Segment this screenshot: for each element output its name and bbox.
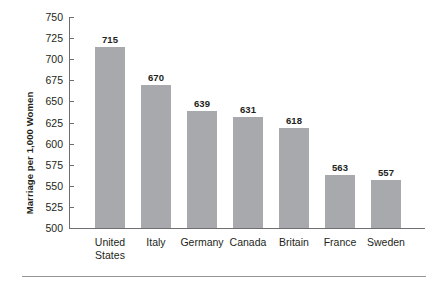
bar-value-label: 557 (363, 168, 409, 178)
y-tick-label: 500 (33, 223, 63, 233)
y-tick-label: 575 (33, 160, 63, 170)
y-tick-label: 525 (33, 202, 63, 212)
bar-chart-figure: Marriage per 1,000 Women 750725700675650… (0, 0, 445, 283)
y-tick-label: 700 (33, 54, 63, 64)
x-axis-category-label-line: Sweden (355, 236, 417, 249)
y-tick-mark (69, 123, 74, 124)
x-axis-line (69, 228, 425, 229)
bar (325, 175, 355, 228)
bar-value-label: 639 (179, 99, 225, 109)
y-tick-mark (69, 59, 74, 60)
bar (233, 117, 263, 228)
y-tick-label: 750 (33, 12, 63, 22)
bar-value-label: 563 (317, 163, 363, 173)
y-axis-title: Marriage per 1,000 Women (23, 63, 37, 243)
y-tick-label: 550 (33, 181, 63, 191)
bar-value-label: 670 (133, 73, 179, 83)
x-axis-category-label: Sweden (355, 236, 417, 249)
bar (187, 111, 217, 228)
y-tick-mark (69, 144, 74, 145)
bar-value-label: 631 (225, 105, 271, 115)
y-tick-label: 600 (33, 139, 63, 149)
bar (371, 180, 401, 228)
bar-value-label: 715 (87, 35, 133, 45)
y-tick-mark (69, 17, 74, 18)
y-tick-mark (69, 228, 74, 229)
y-tick-mark (69, 165, 74, 166)
y-tick-mark (69, 38, 74, 39)
y-tick-label: 650 (33, 96, 63, 106)
y-tick-mark (69, 80, 74, 81)
bar (141, 85, 171, 228)
y-tick-label: 675 (33, 75, 63, 85)
bottom-divider (22, 276, 426, 277)
y-tick-mark (69, 207, 74, 208)
x-axis-category-label-line: States (79, 249, 141, 262)
bar (279, 128, 309, 228)
bar (95, 47, 125, 228)
y-tick-mark (69, 186, 74, 187)
y-tick-label: 725 (33, 33, 63, 43)
y-tick-label: 625 (33, 118, 63, 128)
bar-value-label: 618 (271, 116, 317, 126)
y-tick-mark (69, 101, 74, 102)
